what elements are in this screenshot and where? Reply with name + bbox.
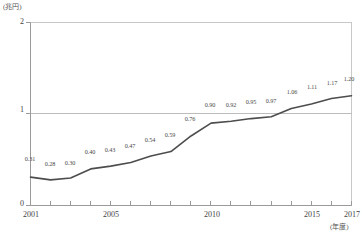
data-label-2001: 0.31 [19, 155, 41, 162]
data-label-2002: 0.28 [39, 160, 61, 167]
data-label-2007: 0.54 [139, 136, 161, 143]
data-label-2008: 0.59 [159, 131, 181, 138]
data-label-2006: 0.47 [119, 142, 141, 149]
data-label-2014: 1.06 [281, 88, 303, 95]
data-label-2017: 1.20 [338, 75, 360, 82]
line-chart: (兆円) (年度) 2 1 0 2001 2005 2010 2015 2017 [0, 0, 362, 233]
data-label-2004: 0.40 [79, 148, 101, 155]
data-series-line [31, 96, 352, 180]
data-label-2009: 0.76 [179, 115, 201, 122]
data-label-2015: 1.11 [301, 83, 323, 90]
x-axis-ticks [31, 201, 352, 206]
data-label-2003: 0.30 [59, 159, 81, 166]
data-label-2005: 0.43 [99, 146, 121, 153]
data-label-2010: 0.90 [199, 101, 221, 108]
data-label-2013: 0.97 [260, 97, 282, 104]
y-axis-ticks [26, 23, 31, 206]
data-label-2012: 0.95 [240, 98, 262, 105]
data-label-2011: 0.92 [220, 101, 242, 108]
